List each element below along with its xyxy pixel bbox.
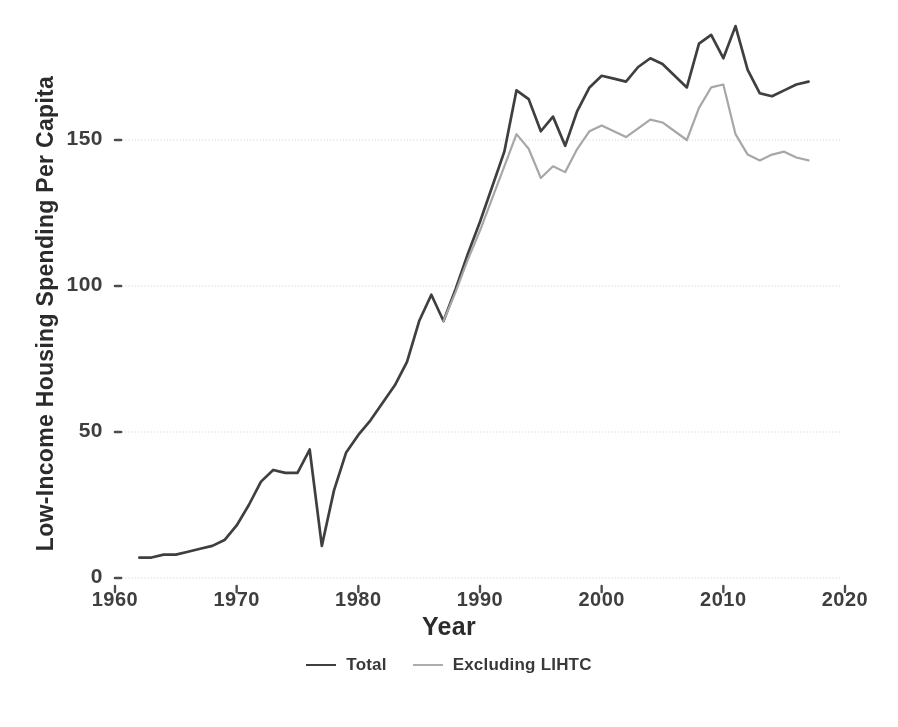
- x-axis-title: Year: [0, 612, 898, 641]
- y-tick-label: 100: [43, 272, 103, 296]
- legend-label: Total: [346, 655, 386, 675]
- y-tick-label: 0: [43, 564, 103, 588]
- x-tick-label: 1990: [440, 588, 520, 611]
- series-line-excluding-lihtc: [444, 85, 809, 322]
- chart-figure: Low-Income Housing Spending Per Capita 1…: [0, 0, 898, 727]
- x-tick-label: 1970: [197, 588, 277, 611]
- chart-legend: TotalExcluding LIHTC: [0, 655, 898, 675]
- y-tick-label: 150: [43, 126, 103, 150]
- x-tick-label: 1980: [318, 588, 398, 611]
- legend-line-icon: [413, 664, 443, 666]
- x-tick-label: 1960: [75, 588, 155, 611]
- legend-label: Excluding LIHTC: [453, 655, 592, 675]
- legend-line-icon: [306, 664, 336, 666]
- x-tick-label: 2010: [683, 588, 763, 611]
- series-line-total: [139, 26, 808, 557]
- legend-item-excluding-lihtc[interactable]: Excluding LIHTC: [413, 655, 592, 675]
- legend-item-total[interactable]: Total: [306, 655, 386, 675]
- y-tick-label: 50: [43, 418, 103, 442]
- x-tick-label: 2000: [562, 588, 642, 611]
- x-tick-label: 2020: [805, 588, 885, 611]
